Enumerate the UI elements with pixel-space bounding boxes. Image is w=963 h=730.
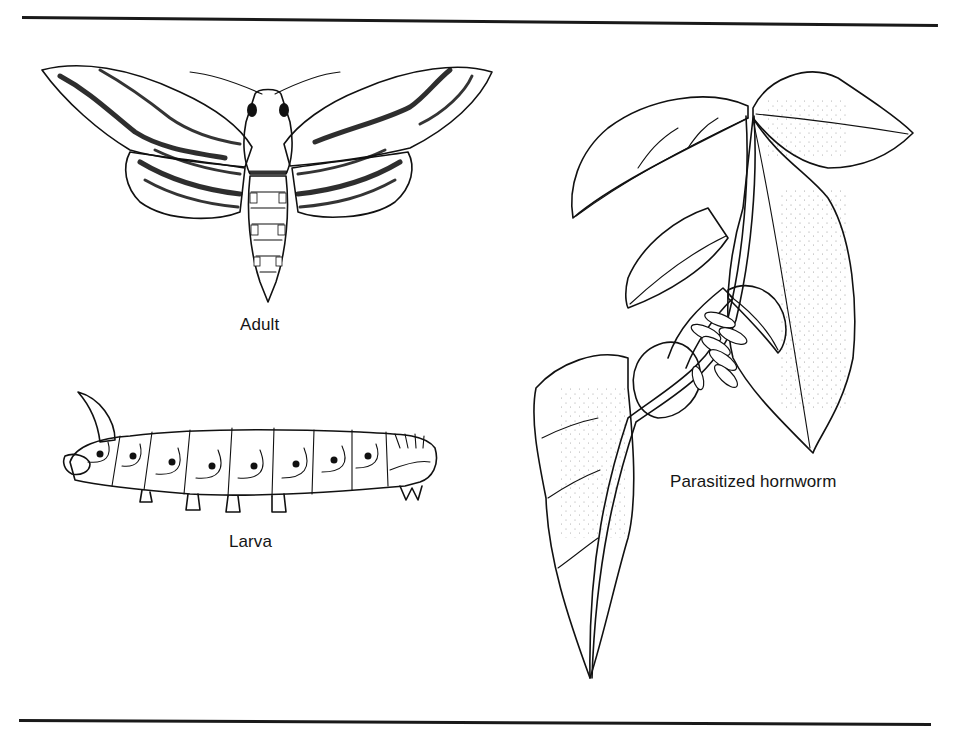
bottom-rule xyxy=(19,719,931,726)
parasitized-hornworm-caption: Parasitized hornworm xyxy=(670,472,836,492)
top-rule xyxy=(22,16,938,27)
adult-moth-illustration xyxy=(40,62,495,312)
larva-caption: Larva xyxy=(229,532,272,552)
adult-caption: Adult xyxy=(240,315,279,335)
parasitized-hornworm-illustration xyxy=(528,58,923,688)
larva-illustration xyxy=(60,390,445,520)
